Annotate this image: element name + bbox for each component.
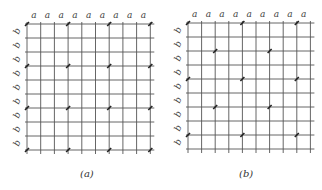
spacing-label-b: b [11,54,22,63]
spacing-label-a: a [260,9,265,19]
spacing-label-b: b [11,26,22,35]
spacing-label-a: a [86,10,91,20]
spacing-label-b: b [172,53,183,62]
spacing-label-b: b [11,68,22,77]
spacing-label-a: a [274,9,279,19]
spacing-label-b: b [11,40,22,49]
spacing-label-a: a [100,10,105,20]
spacing-label-b: b [172,95,183,104]
caption-a: (a) [80,168,94,179]
lattice-figure: aaaaaaaaabbbbbbbbbaaaaaaaaabbbbbbbbb (a)… [0,0,322,190]
spacing-label-b: b [172,109,183,118]
spacing-label-b: b [172,67,183,76]
panel-a: aaaaaaaaabbbbbbbbb [11,10,154,154]
spacing-label-a: a [247,9,252,19]
spacing-label-a: a [301,9,306,19]
spacing-label-b: b [172,25,183,34]
spacing-label-a: a [31,10,36,20]
caption-b: (b) [239,168,253,179]
spacing-label-a: a [219,9,224,19]
spacing-label-b: b [11,96,22,105]
spacing-label-a: a [59,10,64,20]
spacing-label-b: b [11,82,22,91]
spacing-label-b: b [172,39,183,48]
spacing-label-a: a [72,10,77,20]
spacing-label-b: b [11,110,22,119]
spacing-label-a: a [287,9,292,19]
spacing-label-b: b [172,137,183,146]
lattice-diagrams: aaaaaaaaabbbbbbbbbaaaaaaaaabbbbbbbbb [0,0,322,190]
spacing-label-b: b [11,124,22,133]
spacing-label-a: a [141,10,146,20]
spacing-label-a: a [206,9,211,19]
spacing-label-b: b [11,138,22,147]
spacing-label-a: a [127,10,132,20]
spacing-label-b: b [172,81,183,90]
panel-b: aaaaaaaaabbbbbbbbb [172,9,314,153]
spacing-label-a: a [45,10,50,20]
spacing-label-a: a [192,9,197,19]
spacing-label-a: a [113,10,118,20]
spacing-label-a: a [233,9,238,19]
spacing-label-b: b [172,123,183,132]
